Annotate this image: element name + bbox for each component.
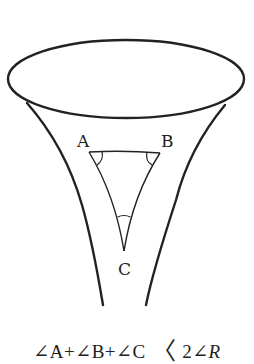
triangle-abc (89, 151, 160, 251)
less-than-symbol: 〈 (152, 338, 177, 364)
plus-sign: + (64, 341, 75, 362)
angle-b-term: ∠B (75, 341, 105, 362)
angle-a-term: ∠A (33, 341, 64, 362)
angle-arc-c (118, 216, 131, 218)
funnel-left-side (27, 103, 103, 305)
vertex-label-a: A (76, 131, 90, 151)
rhs-coefficient: 2∠ (182, 341, 208, 362)
funnel-right-side (146, 105, 225, 305)
side-bc (124, 153, 160, 251)
side-ac (89, 152, 124, 251)
angle-arc-b (147, 152, 152, 165)
angle-arc-a (97, 152, 102, 166)
vertex-label-c: C (118, 259, 131, 279)
angle-sum-inequality: ∠A+∠B+∠C〈2∠R (0, 330, 254, 360)
plus-sign: + (105, 341, 116, 362)
vertex-label-b: B (161, 131, 174, 151)
right-angle-symbol: R (209, 341, 221, 362)
side-ab (89, 151, 160, 153)
pseudosphere-diagram: A B C (0, 0, 254, 364)
funnel-rim (8, 40, 244, 118)
angle-c-term: ∠C (116, 341, 146, 362)
